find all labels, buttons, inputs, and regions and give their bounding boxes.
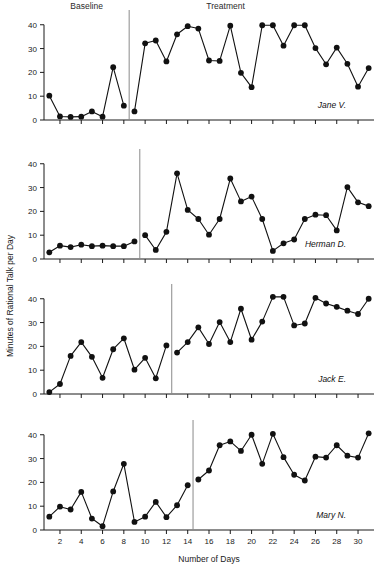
- data-point: [259, 22, 265, 28]
- data-point: [78, 489, 84, 495]
- data-point: [281, 294, 287, 300]
- data-point: [302, 478, 308, 484]
- data-point: [217, 58, 223, 64]
- data-point: [344, 184, 350, 190]
- data-point: [270, 22, 276, 28]
- series-line-baseline: [49, 67, 124, 117]
- data-point: [174, 502, 180, 508]
- data-point: [313, 295, 319, 301]
- data-point: [206, 58, 212, 64]
- data-point: [164, 59, 170, 65]
- data-point: [334, 228, 340, 234]
- data-point: [217, 442, 223, 448]
- data-point: [132, 367, 138, 373]
- x-tick-label: 22: [268, 537, 277, 546]
- data-point: [164, 343, 170, 349]
- data-point: [110, 489, 116, 495]
- data-point: [132, 238, 138, 244]
- data-point: [249, 194, 255, 200]
- data-point: [227, 23, 233, 29]
- data-point: [206, 341, 212, 347]
- x-tick-label: 20: [247, 537, 256, 546]
- data-point: [57, 381, 63, 387]
- data-point: [249, 337, 255, 343]
- data-point: [89, 354, 95, 360]
- data-point: [217, 216, 223, 222]
- data-point: [46, 514, 52, 520]
- data-point: [121, 461, 127, 467]
- y-tick-label: 40: [28, 431, 37, 440]
- data-point: [142, 232, 148, 238]
- data-point: [46, 389, 52, 395]
- data-point: [323, 455, 329, 461]
- data-point: [206, 232, 212, 238]
- data-point: [89, 109, 95, 115]
- x-tick-label: 18: [226, 537, 235, 546]
- data-point: [281, 43, 287, 49]
- data-point: [153, 375, 159, 381]
- data-point: [100, 114, 106, 120]
- y-tick-label: 0: [33, 526, 38, 535]
- data-point: [174, 350, 180, 356]
- y-axis-title: Minutes of Rational Talk per Day: [5, 234, 15, 357]
- data-point: [355, 311, 361, 317]
- data-point: [132, 519, 138, 525]
- chart-svg: Minutes of Rational Talk per Day01020304…: [0, 0, 383, 572]
- data-point: [313, 212, 319, 218]
- data-point: [57, 243, 63, 249]
- data-point: [185, 482, 191, 488]
- multiple-baseline-figure: Minutes of Rational Talk per Day01020304…: [0, 0, 383, 572]
- y-tick-label: 20: [28, 342, 37, 351]
- data-point: [270, 248, 276, 254]
- data-point: [313, 45, 319, 51]
- data-point: [355, 84, 361, 90]
- panel-jane-v: 010203040Jane V.BaselineTreatment: [28, 1, 374, 125]
- data-point: [174, 31, 180, 37]
- x-tick-label: 12: [162, 537, 171, 546]
- data-point: [185, 23, 191, 29]
- data-point: [281, 240, 287, 246]
- data-point: [153, 247, 159, 253]
- y-tick-label: 30: [28, 45, 37, 54]
- data-point: [100, 523, 106, 529]
- data-point: [291, 22, 297, 28]
- data-point: [100, 243, 106, 249]
- y-tick-label: 40: [28, 295, 37, 304]
- data-point: [89, 516, 95, 522]
- data-point: [344, 453, 350, 459]
- data-point: [68, 114, 74, 120]
- data-point: [334, 442, 340, 448]
- data-point: [270, 294, 276, 300]
- data-point: [110, 243, 116, 249]
- baseline-phase-label: Baseline: [70, 1, 103, 11]
- x-axis-title: Number of Days: [178, 554, 239, 564]
- y-tick-label: 20: [28, 68, 37, 77]
- panel-jack-e: 010203040Jack E.: [28, 284, 374, 399]
- data-point: [153, 38, 159, 44]
- data-point: [259, 461, 265, 467]
- data-point: [68, 244, 74, 250]
- data-point: [323, 301, 329, 307]
- data-point: [195, 216, 201, 222]
- data-point: [78, 242, 84, 248]
- data-point: [238, 198, 244, 204]
- data-point: [100, 375, 106, 381]
- data-point: [89, 243, 95, 249]
- data-point: [185, 207, 191, 213]
- treatment-phase-label: Treatment: [206, 1, 245, 11]
- x-tick-label: 30: [354, 537, 363, 546]
- data-point: [238, 70, 244, 76]
- panel-mary-n: 01020304024681012141618202224262830Mary …: [28, 420, 374, 546]
- data-point: [302, 22, 308, 28]
- data-point: [366, 430, 372, 436]
- data-point: [366, 296, 372, 302]
- data-point: [249, 84, 255, 90]
- y-tick-label: 10: [28, 92, 37, 101]
- data-point: [164, 229, 170, 235]
- data-point: [46, 249, 52, 255]
- data-point: [206, 468, 212, 474]
- data-point: [153, 499, 159, 505]
- data-point: [78, 339, 84, 345]
- data-point: [174, 170, 180, 176]
- y-tick-label: 10: [28, 502, 37, 511]
